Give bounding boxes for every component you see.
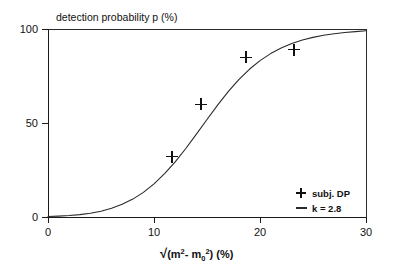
- y-axis-title: detection probability p (%): [56, 11, 177, 23]
- chart-legend: subj. DP k = 2.8: [296, 188, 351, 214]
- legend-marker-plus-icon: [296, 188, 306, 198]
- x-tick-label-30: 30: [360, 226, 372, 238]
- detection-probability-chart: 100 50 0 0 10 20 30 detection probabilit…: [0, 0, 413, 272]
- data-markers-subj-dp: [166, 44, 300, 163]
- y-tick-label-100: 100: [20, 23, 38, 35]
- data-point-marker: [195, 98, 207, 110]
- legend-label-subj-dp: subj. DP: [312, 188, 351, 199]
- x-axis-ticks: [48, 217, 366, 223]
- xlabel-close: ) (%): [210, 248, 234, 260]
- x-tick-label-0: 0: [45, 226, 51, 238]
- x-tick-label-10: 10: [148, 226, 160, 238]
- chart-figure: 100 50 0 0 10 20 30 detection probabilit…: [0, 0, 413, 272]
- xlabel-minus: - m: [185, 248, 202, 260]
- x-tick-label-20: 20: [254, 226, 266, 238]
- x-axis-title: √(m2- m02) (%): [160, 246, 234, 263]
- data-point-marker: [240, 51, 252, 63]
- y-axis-ticks: [42, 29, 48, 217]
- y-tick-label-0: 0: [32, 211, 38, 223]
- xlabel-open: (m: [167, 248, 181, 260]
- y-tick-label-50: 50: [26, 117, 38, 129]
- legend-label-k: k = 2.8: [312, 203, 341, 214]
- data-point-marker: [288, 44, 300, 56]
- svg-text:√(m2- m02) (%): √(m2- m02) (%): [160, 246, 234, 263]
